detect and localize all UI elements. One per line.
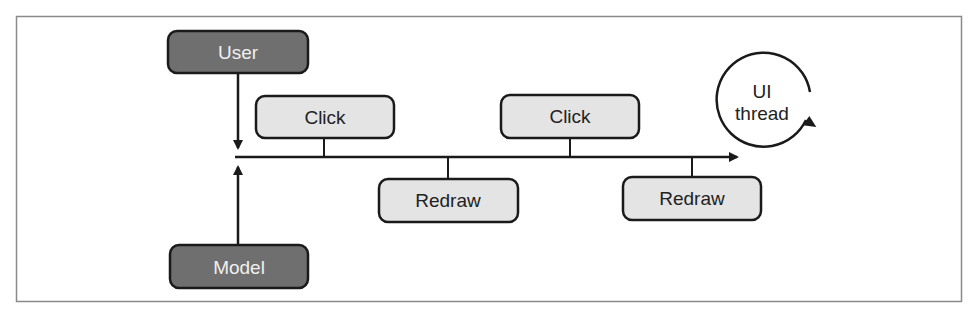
event-label: Redraw: [659, 188, 725, 209]
user-node: User: [168, 31, 308, 73]
event-label: Click: [549, 106, 591, 127]
event-label: Click: [304, 107, 346, 128]
ui-thread-cycle: UI thread: [717, 53, 817, 147]
ui-thread-line2: thread: [735, 103, 789, 124]
event-redraw-2: Redraw: [623, 177, 761, 220]
event-click-1: Click: [256, 96, 394, 138]
diagram-canvas: User Model Click Redraw Click Redraw UI …: [0, 0, 977, 315]
diagram-frame: [17, 17, 962, 302]
model-label: Model: [213, 257, 265, 278]
event-click-2: Click: [501, 95, 639, 138]
user-label: User: [218, 42, 259, 63]
event-redraw-1: Redraw: [379, 179, 518, 222]
ui-thread-line1: UI: [753, 81, 772, 102]
model-node: Model: [170, 245, 308, 288]
event-label: Redraw: [415, 190, 481, 211]
